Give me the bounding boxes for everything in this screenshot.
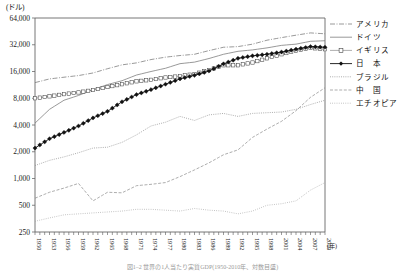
data-point-marker xyxy=(67,128,71,132)
data-point-marker xyxy=(62,130,66,134)
y-axis-tick-label: 250 xyxy=(19,228,31,237)
data-series-group xyxy=(33,33,327,221)
data-point-marker xyxy=(163,82,167,86)
y-axis-tick-label: 64,000 xyxy=(9,14,30,23)
data-point-marker xyxy=(130,81,133,84)
data-point-marker xyxy=(144,79,147,82)
data-point-marker xyxy=(101,86,104,89)
data-point-marker xyxy=(250,54,254,58)
x-axis-tick-label: 1968 xyxy=(123,238,130,250)
legend-label: アメリカ xyxy=(356,20,389,29)
data-point-marker xyxy=(168,80,172,84)
data-point-marker xyxy=(57,93,60,96)
data-point-marker xyxy=(139,91,143,95)
legend-label: エチオピア xyxy=(356,99,398,108)
data-point-marker xyxy=(260,53,264,57)
data-point-marker xyxy=(115,83,118,86)
y-axis-tick-label: 32,000 xyxy=(9,40,30,49)
data-point-marker xyxy=(140,79,143,82)
legend-label: ドイツ xyxy=(356,33,381,42)
x-axis-tick-label: 1989 xyxy=(225,238,232,250)
x-axis-tick-label: 1971 xyxy=(138,238,145,250)
data-point-marker xyxy=(38,96,41,99)
data-point-marker xyxy=(120,83,123,86)
data-point-marker xyxy=(91,88,94,91)
data-point-marker xyxy=(154,86,158,90)
series-line-dashed xyxy=(35,88,325,201)
x-axis-tick-label: 1983 xyxy=(196,238,203,250)
data-point-marker xyxy=(125,97,129,101)
data-point-marker xyxy=(81,121,85,125)
x-axis-tick-label: 2001 xyxy=(283,238,290,250)
x-axis-tick-label: 2004 xyxy=(297,238,304,250)
data-point-marker xyxy=(111,84,114,87)
data-point-marker xyxy=(231,58,235,62)
series-line-dotted xyxy=(35,100,325,165)
data-point-marker xyxy=(154,77,157,80)
x-axis-tick-label: 1995 xyxy=(254,238,261,250)
data-point-marker xyxy=(48,95,51,98)
data-point-marker xyxy=(144,89,148,93)
x-axis-unit-label: (年) xyxy=(327,242,337,250)
data-point-marker xyxy=(72,91,75,94)
x-axis-tick-label: 2007 xyxy=(312,238,319,250)
legend-marker-filled-diamond xyxy=(339,61,343,65)
data-point-marker xyxy=(255,53,259,57)
data-point-marker xyxy=(72,126,76,130)
x-axis-tick-label: 1998 xyxy=(268,238,275,250)
x-axis-tick-label: 1992 xyxy=(239,238,246,250)
data-point-marker xyxy=(96,114,100,118)
data-point-marker xyxy=(231,64,234,67)
y-axis-tick-label: 500 xyxy=(19,201,31,210)
y-axis-tick-label: 2,000 xyxy=(13,147,30,156)
data-point-marker xyxy=(265,52,269,56)
legend-label: 中 国 xyxy=(356,85,381,95)
y-axis-tick-label: 8,000 xyxy=(13,94,30,103)
y-axis-tick-label: 4,000 xyxy=(13,121,30,130)
data-point-marker xyxy=(246,55,250,59)
x-axis-tick-label: 1986 xyxy=(210,238,217,250)
chart-plot-area: 64,00032,00016,0008,0004,0002,0001,00050… xyxy=(0,0,405,272)
legend-label: ブラジル xyxy=(356,72,389,82)
data-point-marker xyxy=(125,82,128,85)
data-point-marker xyxy=(76,124,80,128)
data-point-marker xyxy=(91,116,95,120)
x-axis-tick-label: 1950 xyxy=(36,238,43,250)
legend-label: イギリス xyxy=(356,46,389,55)
data-point-marker xyxy=(57,132,61,136)
y-axis-tick-label: 16,000 xyxy=(9,67,30,76)
x-axis-tick-label: 1974 xyxy=(152,238,159,250)
data-point-marker xyxy=(135,80,138,83)
x-axis-tick-label: 1965 xyxy=(109,238,116,250)
data-point-marker xyxy=(169,75,172,78)
data-point-marker xyxy=(251,61,254,64)
y-axis-tick-label: 1,000 xyxy=(13,174,30,183)
y-axis-tick-group: 64,00032,00016,0008,0004,0002,0001,00050… xyxy=(9,14,35,237)
data-point-marker xyxy=(241,55,245,59)
data-point-marker xyxy=(43,95,46,98)
data-point-marker xyxy=(134,92,138,96)
x-axis-tick-label: 1977 xyxy=(167,238,174,250)
x-axis-tick-group: 1950195319561959196219651968197119741977… xyxy=(35,232,337,250)
data-point-marker xyxy=(260,58,263,61)
data-point-marker xyxy=(173,79,177,83)
x-axis-tick-label: 1962 xyxy=(94,238,101,250)
x-axis-tick-label: 1959 xyxy=(80,238,87,250)
x-axis-tick-label: 1953 xyxy=(51,238,58,250)
x-axis-tick-label: 1980 xyxy=(181,238,188,250)
data-point-marker xyxy=(130,95,134,99)
series-line-filled-diamond xyxy=(35,47,325,148)
data-point-marker xyxy=(149,88,153,92)
data-point-marker xyxy=(86,89,89,92)
data-point-marker xyxy=(173,75,176,78)
data-point-marker xyxy=(265,57,268,60)
x-axis-tick-label: 1956 xyxy=(65,238,72,250)
legend-marker-open-square xyxy=(339,49,343,53)
data-point-marker xyxy=(246,62,249,65)
data-point-marker xyxy=(236,64,239,67)
data-point-marker xyxy=(106,85,109,88)
data-point-marker xyxy=(77,91,80,94)
data-point-marker xyxy=(159,84,163,88)
data-point-marker xyxy=(164,76,167,79)
legend: アメリカドイツイギリス日 本ブラジル中 国エチオピア xyxy=(330,20,398,108)
